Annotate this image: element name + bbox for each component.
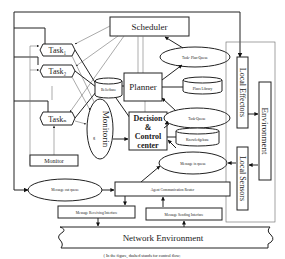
- svg-text:Local Sensors: Local Sensors: [238, 156, 247, 201]
- svg-text:Message Sending Interface: Message Sending Interface: [165, 213, 204, 217]
- local-sensors-box: Local Sensors: [237, 147, 248, 210]
- knowledgebase-cylinder: Knowledgebase: [176, 128, 219, 146]
- message-sending-interface: Message Sending Interface: [146, 208, 222, 220]
- task-n: Taskₙ: [40, 112, 75, 125]
- svg-text:Environment: Environment: [260, 108, 270, 155]
- svg-text:Task₂: Task₂: [49, 67, 67, 76]
- svg-text:Message in queue: Message in queue: [180, 162, 206, 166]
- monitoring-ellipse: Monitorin g: [87, 99, 113, 159]
- message-out-queue: Message out queue: [28, 179, 102, 201]
- planner-box: Planner: [124, 73, 162, 101]
- svg-text:Agent Communication Router: Agent Communication Router: [151, 188, 195, 192]
- monitor-box: Monitor: [30, 155, 78, 166]
- svg-text:Task₁: Task₁: [49, 46, 67, 55]
- agent-communication-router: Agent Communication Router: [115, 182, 230, 196]
- environment-box: Environment: [259, 82, 271, 180]
- svg-text:Knowledgebase: Knowledgebase: [186, 138, 209, 142]
- svg-text:&: &: [145, 123, 152, 132]
- task-1: Task₁: [40, 44, 75, 56]
- plans-library-cylinder: Plans Library: [183, 77, 222, 94]
- agent-architecture-diagram: Scheduler Task₁ Task₂ Taskₙ Beliefbase: [0, 0, 285, 259]
- svg-text:Monitor: Monitor: [44, 158, 64, 164]
- message-in-queue: Message in queue: [159, 152, 227, 174]
- svg-text:Beliefbase: Beliefbase: [101, 88, 117, 92]
- svg-text:Monitorin: Monitorin: [101, 111, 111, 148]
- scheduler-label: Scheduler: [132, 22, 168, 32]
- local-effectors-box: Local Effectors: [237, 57, 248, 128]
- svg-text:Plans Library: Plans Library: [193, 87, 213, 91]
- figure-caption: ( In the figure, dashed stands for contr…: [103, 253, 180, 259]
- svg-text:Decision: Decision: [134, 114, 163, 123]
- svg-text:Message out queue: Message out queue: [51, 188, 79, 192]
- svg-text:Taskₙ: Taskₙ: [48, 115, 67, 124]
- task-queue: Task-Queue: [164, 108, 230, 128]
- network-environment-banner: Network Environment: [59, 227, 273, 248]
- task-plan-queue: Task- Plan-Queue: [160, 47, 230, 67]
- task-2: Task₂: [40, 65, 75, 77]
- message-receiving-interface: Message Receiving Interface: [58, 206, 135, 218]
- decision-control-center: Decision & Control center: [129, 112, 167, 150]
- svg-text:Task-Queue: Task-Queue: [188, 117, 206, 121]
- svg-text:center: center: [137, 141, 159, 150]
- svg-text:Task- Plan-Queue: Task- Plan-Queue: [182, 56, 208, 60]
- scheduler-box: Scheduler: [110, 17, 189, 36]
- beliefbase-cylinder: Beliefbase: [95, 78, 122, 98]
- svg-text:Local Effectors: Local Effectors: [238, 68, 247, 117]
- svg-text:Message Receiving Interface: Message Receiving Interface: [76, 211, 118, 215]
- svg-text:Planner: Planner: [129, 82, 157, 92]
- svg-text:Network Environment: Network Environment: [123, 233, 204, 243]
